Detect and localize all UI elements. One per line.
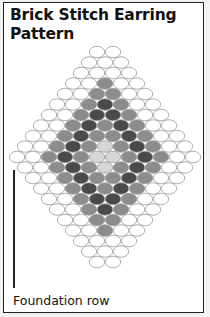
bead <box>145 141 160 153</box>
bead <box>73 88 88 100</box>
bead <box>121 235 136 247</box>
bead <box>33 141 48 153</box>
bead-row <box>25 130 184 142</box>
bead <box>41 193 56 205</box>
bead <box>81 246 96 258</box>
bead <box>73 109 88 121</box>
bead <box>105 256 120 268</box>
bead <box>113 120 128 132</box>
bead <box>177 162 192 174</box>
bead <box>121 67 136 79</box>
bead-row <box>57 214 152 226</box>
bead <box>57 151 72 163</box>
bead <box>65 120 80 132</box>
bead <box>129 162 144 174</box>
bead <box>81 183 96 195</box>
bead <box>97 120 112 132</box>
bead <box>89 151 104 163</box>
bead <box>153 172 168 184</box>
bead-row <box>17 162 192 174</box>
bead <box>89 214 104 226</box>
bead <box>169 130 184 142</box>
bead <box>81 141 96 153</box>
bead <box>49 141 64 153</box>
bead <box>145 204 160 216</box>
bead-row <box>65 225 144 237</box>
bead-pattern-grid <box>0 0 210 317</box>
bead <box>25 151 40 163</box>
bead <box>121 109 136 121</box>
bead <box>73 214 88 226</box>
bead <box>65 99 80 111</box>
bead <box>169 151 184 163</box>
bead <box>97 225 112 237</box>
bead <box>81 99 96 111</box>
bead <box>89 67 104 79</box>
bead <box>145 162 160 174</box>
bead <box>121 130 136 142</box>
bead <box>161 183 176 195</box>
bead <box>33 162 48 174</box>
bead <box>177 141 192 153</box>
bead <box>57 88 72 100</box>
bead <box>33 183 48 195</box>
bead <box>57 172 72 184</box>
bead <box>17 141 32 153</box>
bead <box>113 78 128 90</box>
bead <box>9 151 24 163</box>
bead <box>121 214 136 226</box>
bead-row <box>81 57 128 69</box>
bead-row <box>33 183 176 195</box>
bead <box>113 246 128 258</box>
bead <box>65 225 80 237</box>
bead <box>41 109 56 121</box>
bead <box>65 204 80 216</box>
bead <box>89 172 104 184</box>
bead-row <box>65 78 144 90</box>
bead <box>137 109 152 121</box>
bead-row <box>41 193 168 205</box>
bead <box>81 120 96 132</box>
bead <box>137 172 152 184</box>
bead <box>41 172 56 184</box>
bead <box>73 172 88 184</box>
bead <box>137 214 152 226</box>
bead <box>153 151 168 163</box>
bead <box>113 162 128 174</box>
bead <box>121 172 136 184</box>
bead <box>89 109 104 121</box>
bead <box>161 141 176 153</box>
bead <box>49 183 64 195</box>
bead <box>137 130 152 142</box>
bead <box>105 88 120 100</box>
bead <box>153 193 168 205</box>
bead <box>17 162 32 174</box>
bead <box>49 99 64 111</box>
bead-row <box>81 246 128 258</box>
bead <box>25 172 40 184</box>
bead <box>129 120 144 132</box>
bead <box>97 57 112 69</box>
bead <box>145 99 160 111</box>
bead <box>81 78 96 90</box>
bead <box>137 193 152 205</box>
bead <box>65 141 80 153</box>
bead <box>49 120 64 132</box>
bead <box>65 78 80 90</box>
bead-row <box>33 120 176 132</box>
bead <box>89 235 104 247</box>
bead <box>121 193 136 205</box>
bead <box>97 162 112 174</box>
bead <box>97 78 112 90</box>
bead <box>153 130 168 142</box>
bead-row <box>49 204 160 216</box>
bead <box>105 109 120 121</box>
bead <box>129 99 144 111</box>
bead <box>41 130 56 142</box>
bead <box>137 88 152 100</box>
bead <box>113 225 128 237</box>
bead <box>97 204 112 216</box>
bead <box>129 225 144 237</box>
bead <box>129 78 144 90</box>
bead-row <box>89 46 120 58</box>
